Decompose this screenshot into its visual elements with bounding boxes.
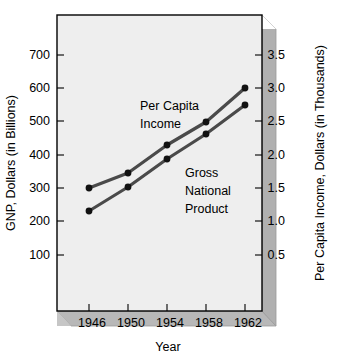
left-axis-title: GNP, Dollars (in Billions) [4,95,18,231]
annotation-line: Product [185,202,229,216]
right-tick-label: 3.5 [268,48,285,62]
x-tick-label: 1946 [78,316,106,330]
data-point [86,185,93,192]
left-tick-label: 700 [29,48,50,62]
annotation-line: Gross [185,166,218,180]
left-tick-label: 600 [29,81,50,95]
right-tick-label: 3.0 [268,81,285,95]
x-tick-label: 1962 [234,316,262,330]
left-tick-label: 100 [29,248,50,262]
left-axis-tick-labels: 700 600 500 400 300 200 100 [29,48,50,262]
right-axis-title: Per Capita Income, Dollars (in Thousands… [313,45,327,281]
x-tick-label: 1950 [117,316,145,330]
x-axis-tick-labels: 1946 1950 1954 1958 1962 [78,316,262,330]
data-point [203,131,210,138]
right-tick-label: 1.5 [268,181,285,195]
x-axis-title: Year [155,340,180,354]
right-tick-label: 1.0 [268,214,285,228]
x-tick-label: 1954 [156,316,184,330]
data-point [242,85,249,92]
annotation-line: National [185,184,231,198]
left-tick-label: 300 [29,181,50,195]
data-point [86,208,93,215]
data-point [164,142,171,149]
left-tick-label: 500 [29,114,50,128]
line-chart: 700 600 500 400 300 200 100 GNP, Dollars… [0,0,337,361]
data-point [125,184,132,191]
x-tick-label: 1958 [195,316,223,330]
right-tick-label: 0.5 [268,248,285,262]
left-tick-label: 200 [29,214,50,228]
annotation-line: Per Capita [140,99,199,113]
data-point [203,119,210,126]
chart-figure: 700 600 500 400 300 200 100 GNP, Dollars… [0,0,337,361]
right-tick-label: 2.5 [268,114,285,128]
data-point [164,156,171,163]
data-point [242,102,249,109]
right-tick-label: 2.0 [268,148,285,162]
annotation-line: Income [140,117,181,131]
left-tick-label: 400 [29,148,50,162]
data-point [125,170,132,177]
